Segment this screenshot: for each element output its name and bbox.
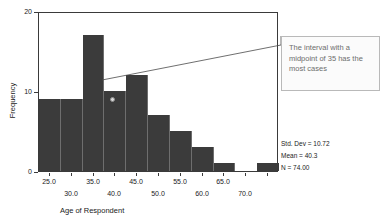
y-axis-tick-label: 20 bbox=[16, 8, 32, 15]
histogram-bar bbox=[126, 75, 148, 171]
x-axis-tick bbox=[180, 173, 181, 176]
bar-series bbox=[39, 13, 277, 171]
stat-mean: Mean = 40.3 bbox=[281, 150, 330, 162]
histogram-bar bbox=[214, 163, 236, 171]
histogram-bar bbox=[257, 163, 279, 171]
histogram-bar bbox=[61, 99, 83, 171]
x-axis-tick-label: 65.0 bbox=[216, 178, 230, 185]
x-axis-tick bbox=[158, 173, 159, 176]
x-axis-tick bbox=[71, 173, 72, 176]
y-axis-tick bbox=[34, 92, 38, 93]
x-axis-tick bbox=[267, 173, 268, 176]
x-axis-tick bbox=[202, 173, 203, 176]
x-axis-tick-label: 25.0 bbox=[42, 178, 56, 185]
x-axis-tick-label: 45.0 bbox=[129, 178, 143, 185]
x-axis-tick bbox=[136, 173, 137, 176]
y-axis-tick-label: 10 bbox=[16, 88, 32, 95]
y-axis-tick bbox=[34, 12, 38, 13]
x-axis-tick-label: 55.0 bbox=[173, 178, 187, 185]
stat-std-dev: Std. Dev = 10.72 bbox=[281, 138, 330, 150]
plot-area bbox=[38, 12, 278, 172]
x-axis-tick bbox=[223, 173, 224, 176]
data-point-marker-icon bbox=[110, 97, 115, 102]
statistics-block: Std. Dev = 10.72 Mean = 40.3 N = 74.00 bbox=[281, 138, 330, 174]
x-axis-tick bbox=[49, 173, 50, 176]
x-axis-tick-label: 50.0 bbox=[151, 190, 165, 197]
histogram-figure: 01020 Frequency 25.035.045.055.065.030.0… bbox=[0, 0, 387, 222]
x-axis-title: Age of Respondent bbox=[60, 206, 124, 215]
stat-n: N = 74.00 bbox=[281, 162, 330, 174]
x-axis-tick bbox=[93, 173, 94, 176]
y-axis-tick-label: 0 bbox=[16, 168, 32, 175]
x-axis-tick-label: 40.0 bbox=[107, 190, 121, 197]
y-axis-tick bbox=[34, 172, 38, 173]
histogram-bar bbox=[148, 115, 170, 171]
x-axis-tick bbox=[245, 173, 246, 176]
x-axis-tick bbox=[114, 173, 115, 176]
callout-box: The interval with a midpoint of 35 has t… bbox=[281, 36, 380, 91]
histogram-bar bbox=[39, 99, 61, 171]
histogram-bar bbox=[170, 131, 192, 171]
y-axis-title: Frequency bbox=[8, 61, 17, 141]
histogram-bar bbox=[104, 91, 126, 171]
histogram-bar bbox=[192, 147, 214, 171]
x-axis-tick-label: 35.0 bbox=[86, 178, 100, 185]
x-axis-tick-label: 70.0 bbox=[238, 190, 252, 197]
histogram-bar bbox=[83, 35, 105, 171]
x-axis-tick-label: 60.0 bbox=[195, 190, 209, 197]
x-axis-tick-label: 30.0 bbox=[64, 190, 78, 197]
